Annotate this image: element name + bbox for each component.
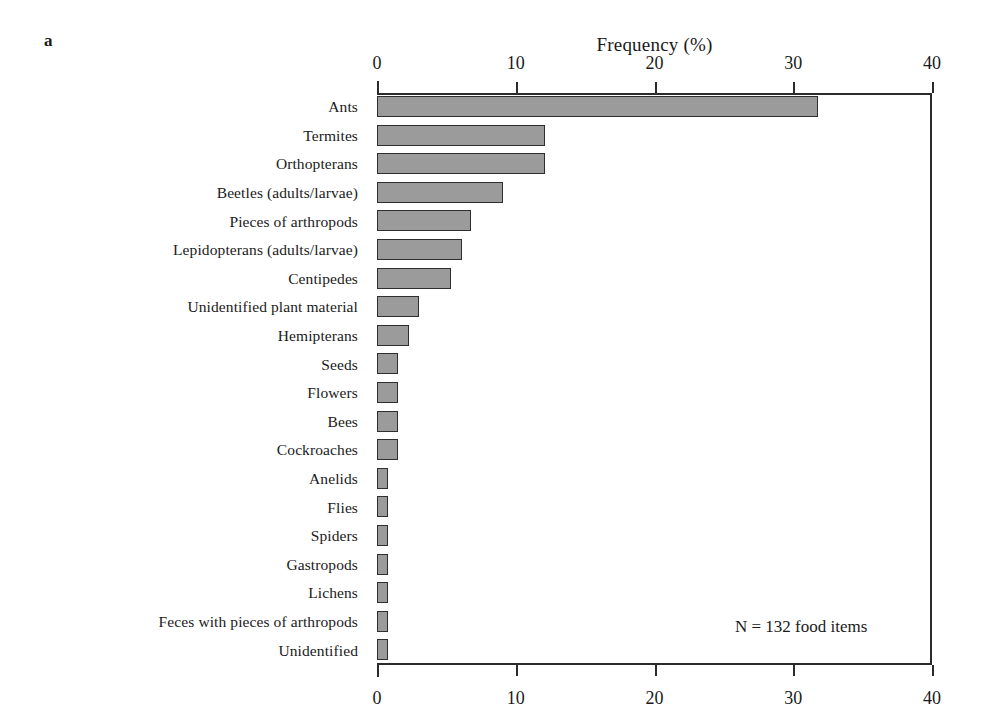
y-axis-label: Termites — [303, 127, 367, 145]
y-axis-label: Hemipterans — [278, 327, 367, 345]
x-tick-label-bottom: 20 — [625, 688, 685, 709]
bar — [377, 353, 398, 374]
y-axis-label: Lichens — [308, 584, 367, 602]
bar — [377, 125, 545, 146]
bar-row — [377, 636, 932, 665]
y-axis-label: Spiders — [311, 527, 367, 545]
y-axis-label: Anelids — [309, 470, 367, 488]
x-tick-bottom — [377, 665, 379, 676]
bar-row — [377, 207, 932, 236]
figure-panel-a: a Frequency (%) AntsTermitesOrthopterans… — [0, 0, 989, 723]
y-axis-label: Unidentified plant material — [187, 298, 367, 316]
bar-row — [377, 522, 932, 551]
bar — [377, 182, 503, 203]
x-tick-top — [377, 82, 379, 93]
y-axis-label: Flowers — [307, 384, 367, 402]
y-axis-label-row: Hemipterans — [0, 322, 367, 351]
y-axis-label-row: Termites — [0, 122, 367, 151]
y-axis-label: Orthopterans — [276, 155, 367, 173]
y-axis-label: Ants — [328, 98, 367, 116]
y-axis-label-row: Orthopterans — [0, 150, 367, 179]
bar — [377, 411, 398, 432]
x-tick-bottom — [516, 665, 518, 676]
y-axis-label-row: Lepidopterans (adults/larvae) — [0, 236, 367, 265]
bar-row — [377, 350, 932, 379]
y-axis-category-labels: AntsTermitesOrthopteransBeetles (adults/… — [0, 93, 367, 665]
sample-size-annotation: N = 132 food items — [735, 617, 867, 637]
bar — [377, 639, 388, 660]
bar — [377, 496, 388, 517]
bar — [377, 153, 545, 174]
x-tick-label-bottom: 40 — [902, 688, 962, 709]
y-axis-label-row: Pieces of arthropods — [0, 207, 367, 236]
x-tick-top — [516, 82, 518, 93]
bar-row — [377, 579, 932, 608]
y-axis-label-row: Seeds — [0, 350, 367, 379]
y-axis-label: Cockroaches — [277, 441, 367, 459]
y-axis-label: Flies — [327, 499, 367, 517]
x-tick-bottom — [932, 665, 934, 676]
y-axis-label-row: Flowers — [0, 379, 367, 408]
y-axis-label-row: Anelids — [0, 465, 367, 494]
bar-row — [377, 122, 932, 151]
bar — [377, 325, 409, 346]
bar-row — [377, 436, 932, 465]
x-tick-label-top: 40 — [902, 53, 962, 74]
bar-row — [377, 379, 932, 408]
y-axis-label: Pieces of arthropods — [229, 213, 367, 231]
bar-series — [377, 93, 932, 665]
y-axis-label-row: Unidentified plant material — [0, 293, 367, 322]
bar — [377, 296, 419, 317]
bar-row — [377, 236, 932, 265]
bar — [377, 210, 471, 231]
x-tick-bottom — [793, 665, 795, 676]
bar-row — [377, 493, 932, 522]
x-tick-label-top: 0 — [347, 53, 407, 74]
y-axis-label-row: Beetles (adults/larvae) — [0, 179, 367, 208]
bar — [377, 439, 398, 460]
x-tick-label-top: 10 — [486, 53, 546, 74]
bar-row — [377, 293, 932, 322]
x-tick-label-bottom: 0 — [347, 688, 407, 709]
x-tick-top — [655, 82, 657, 93]
y-axis-label-row: Lichens — [0, 579, 367, 608]
bar-row — [377, 408, 932, 437]
bar — [377, 239, 462, 260]
y-axis-label: Feces with pieces of arthropods — [159, 613, 367, 631]
x-tick-label-bottom: 10 — [486, 688, 546, 709]
bar — [377, 582, 388, 603]
bar-row — [377, 93, 932, 122]
y-axis-label: Lepidopterans (adults/larvae) — [173, 241, 367, 259]
panel-label: a — [44, 31, 53, 51]
y-axis-label-row: Cockroaches — [0, 436, 367, 465]
bar-row — [377, 150, 932, 179]
y-axis-label: Centipedes — [288, 270, 367, 288]
x-tick-bottom — [655, 665, 657, 676]
y-axis-label: Bees — [327, 413, 367, 431]
y-axis-label: Seeds — [321, 356, 367, 374]
y-axis-label-row: Unidentified — [0, 636, 367, 665]
y-axis-label-row: Gastropods — [0, 551, 367, 580]
y-axis-label-row: Bees — [0, 408, 367, 437]
bar-row — [377, 265, 932, 294]
bar-row — [377, 465, 932, 494]
y-axis-label-row: Centipedes — [0, 265, 367, 294]
y-axis-label: Beetles (adults/larvae) — [217, 184, 367, 202]
bar — [377, 554, 388, 575]
x-tick-label-bottom: 30 — [763, 688, 823, 709]
y-axis-label-row: Feces with pieces of arthropods — [0, 608, 367, 637]
bar-row — [377, 551, 932, 580]
y-axis-label-row: Flies — [0, 493, 367, 522]
plot-area: 010203040 010203040 — [377, 93, 932, 665]
y-axis-label: Unidentified — [278, 642, 367, 660]
bar — [377, 96, 818, 117]
x-tick-label-top: 20 — [625, 53, 685, 74]
bar — [377, 611, 388, 632]
bar-row — [377, 179, 932, 208]
bar — [377, 468, 388, 489]
bar — [377, 382, 398, 403]
y-axis-label: Gastropods — [286, 556, 367, 574]
y-axis-label-row: Ants — [0, 93, 367, 122]
bar — [377, 525, 388, 546]
bar — [377, 268, 451, 289]
